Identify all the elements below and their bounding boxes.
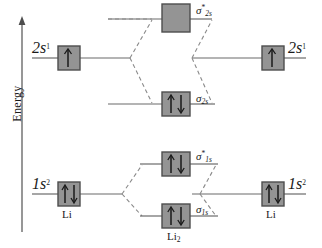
molecule-label-subscript: 2: [177, 235, 181, 244]
right-1s-label-base: 1s: [288, 175, 302, 192]
sigma-1s-star-subscript: 1s: [205, 155, 212, 164]
right-1s-label-sup: 2: [302, 178, 306, 187]
right-1s-label: 1s2: [288, 176, 306, 192]
energy-axis-arrowhead: [19, 16, 26, 25]
sigma-1s-orbital-box[interactable]: [162, 204, 190, 228]
sigma-2s-orbital-box[interactable]: [162, 92, 190, 116]
sigma-2s-subscript: 2s: [201, 97, 208, 106]
right-1s-orbital-box[interactable]: [262, 182, 284, 206]
energy-axis-label: Energy: [10, 74, 25, 134]
left-1s-orbital-box[interactable]: [58, 182, 80, 206]
sigma-1s-star-label: σ*1s: [196, 151, 212, 162]
sigma-2s-star-box-rect: [162, 4, 190, 32]
sigma-1s-box-rect: [162, 204, 190, 228]
right-2s-label: 2s1: [288, 40, 306, 56]
sigma-2s-label: σ2s: [196, 93, 208, 104]
left-1s-label-sup: 2: [46, 178, 50, 187]
left-2s-label-sup: 1: [46, 42, 50, 51]
right-atom-label: Li: [266, 209, 276, 220]
molecule-label-base: Li: [167, 230, 177, 242]
dash-right-2s-to-antibonding: [192, 20, 212, 58]
right-1s-box-rect: [262, 182, 284, 206]
right-2s-orbital-box[interactable]: [262, 46, 284, 70]
right-2s-label-base: 2s: [288, 39, 302, 56]
sigma-2s-star-subscript: 2s: [205, 9, 212, 18]
left-1s-label-base: 1s: [32, 175, 46, 192]
dash-left-1s-to-antibonding: [122, 165, 142, 194]
dash-left-1s-to-bonding: [122, 194, 142, 216]
right-2s-label-sup: 1: [302, 42, 306, 51]
sigma-1s-subscript: 1s: [201, 208, 208, 217]
left-atom-label: Li: [62, 209, 72, 220]
sigma-1s-label: σ1s: [196, 204, 208, 215]
sigma-2s-box-rect: [162, 92, 190, 116]
left-2s-orbital-box[interactable]: [58, 46, 80, 70]
molecule-label: Li2: [167, 231, 181, 242]
left-1s-box-rect: [58, 182, 80, 206]
sigma-2s-star-label: σ*2s: [196, 5, 212, 16]
left-2s-label: 2s1: [32, 40, 50, 56]
dash-right-1s-to-antibonding: [200, 165, 216, 194]
left-2s-label-base: 2s: [32, 39, 46, 56]
left-1s-label: 1s2: [32, 176, 50, 192]
dash-left-2s-to-bonding: [130, 58, 152, 103]
dash-left-2s-to-antibonding: [130, 20, 152, 58]
sigma-1s-star-box-rect: [162, 152, 190, 176]
sigma-2s-star-orbital-box[interactable]: [162, 4, 190, 32]
sigma-1s-star-orbital-box[interactable]: [162, 152, 190, 176]
